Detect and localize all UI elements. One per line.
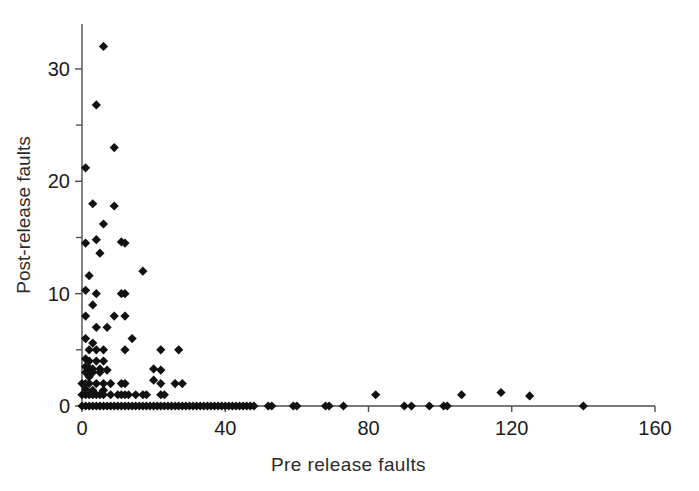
data-point	[120, 345, 129, 354]
data-point	[102, 323, 111, 332]
data-point	[88, 300, 97, 309]
data-point	[110, 312, 119, 321]
data-point	[110, 143, 119, 152]
data-point	[156, 365, 165, 374]
data-point	[110, 201, 119, 210]
data-point	[128, 334, 137, 343]
data-point	[99, 42, 108, 51]
data-point	[99, 345, 108, 354]
data-point	[99, 356, 108, 365]
data-point	[371, 390, 380, 399]
data-points	[77, 42, 588, 411]
data-point	[457, 390, 466, 399]
tick-labels: 040801201600102030	[48, 58, 672, 439]
y-tick-label-0: 0	[59, 395, 70, 417]
data-point	[425, 401, 434, 410]
y-tick-label-30: 30	[48, 58, 70, 80]
data-point	[496, 388, 505, 397]
data-point	[525, 391, 534, 400]
data-point	[88, 199, 97, 208]
x-tick-label-0: 0	[76, 417, 87, 439]
x-tick-label-160: 160	[638, 417, 671, 439]
data-point	[85, 271, 94, 280]
data-point	[407, 401, 416, 410]
plot-canvas: 040801201600102030 Pre release faultsPos…	[0, 0, 699, 491]
data-point	[92, 235, 101, 244]
data-point	[99, 219, 108, 228]
x-tick-label-40: 40	[214, 417, 236, 439]
x-tick-label-80: 80	[357, 417, 379, 439]
data-point	[178, 379, 187, 388]
tick-marks	[75, 69, 655, 412]
data-point	[120, 312, 129, 321]
axes	[82, 24, 655, 406]
data-point	[95, 249, 104, 258]
y-axis-title: Post-release faults	[13, 136, 34, 293]
x-tick-label-120: 120	[495, 417, 528, 439]
data-point	[102, 365, 111, 374]
data-point	[92, 100, 101, 109]
data-point	[138, 267, 147, 276]
data-point	[92, 323, 101, 332]
scatter-plot-figure: 040801201600102030 Pre release faultsPos…	[0, 0, 699, 491]
data-point	[92, 289, 101, 298]
x-axis-title: Pre release faults	[271, 454, 426, 475]
data-point	[156, 345, 165, 354]
y-tick-label-20: 20	[48, 170, 70, 192]
data-point	[106, 379, 115, 388]
data-point	[174, 345, 183, 354]
data-point	[149, 364, 158, 373]
data-point	[579, 401, 588, 410]
y-tick-label-10: 10	[48, 283, 70, 305]
data-point	[339, 401, 348, 410]
